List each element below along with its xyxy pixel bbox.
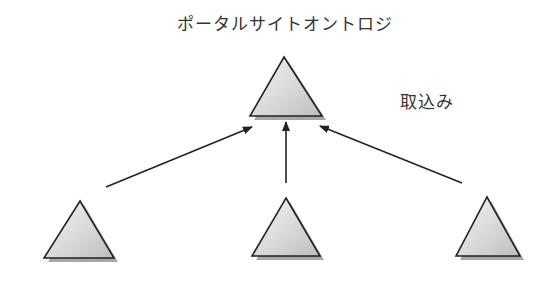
node-source-ontology-1 xyxy=(44,201,118,262)
diagram-canvas: ポータルサイトオントロジ 取込み xyxy=(0,0,559,281)
node-source-ontology-3 xyxy=(456,197,524,260)
arrow-edge-right xyxy=(320,126,462,183)
node-source-ontology-2 xyxy=(252,198,324,260)
arrow-edge-left xyxy=(106,127,252,187)
triangle-icon xyxy=(252,198,320,256)
triangle-icon xyxy=(456,197,520,256)
diagram-graphics xyxy=(0,0,559,281)
triangle-icon xyxy=(250,57,322,116)
triangle-icon xyxy=(44,201,114,258)
node-portal-ontology xyxy=(250,57,326,120)
